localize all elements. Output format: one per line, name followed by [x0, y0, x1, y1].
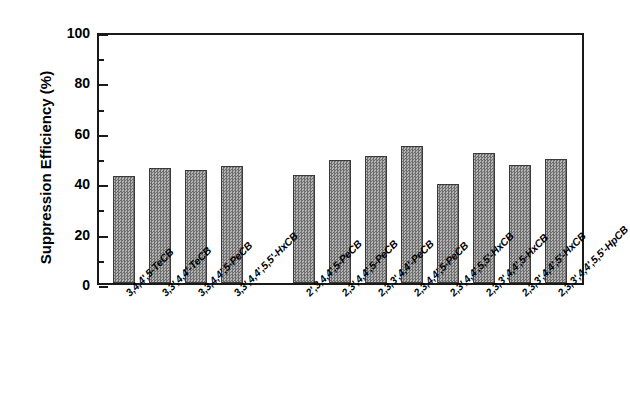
y-tick-label: 20 — [50, 227, 90, 243]
bar — [293, 175, 315, 283]
y-tick-minor — [99, 210, 104, 212]
y-tick-major — [99, 84, 108, 86]
y-tick-minor — [99, 110, 104, 112]
y-tick-label: 60 — [50, 126, 90, 142]
y-tick-major — [99, 286, 108, 288]
y-tick-major — [99, 236, 108, 238]
y-tick-minor — [99, 160, 104, 162]
y-tick-minor — [99, 59, 104, 61]
y-tick-label: 40 — [50, 176, 90, 192]
y-tick-label: 80 — [50, 75, 90, 91]
y-tick-major — [99, 135, 108, 137]
y-tick-major — [99, 185, 108, 187]
bar — [113, 176, 135, 283]
y-tick-label: 100 — [50, 25, 90, 41]
y-tick-minor — [99, 261, 104, 263]
y-tick-major — [99, 34, 108, 36]
y-tick-label: 0 — [50, 277, 90, 293]
